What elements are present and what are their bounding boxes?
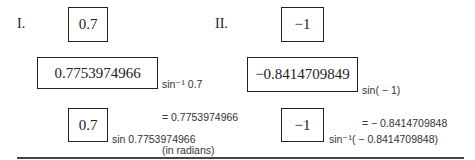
section-1-input-display: 0.7 [68,7,108,42]
note-line: sin⁻¹( − 0.8414709848) [329,134,438,145]
section-2-arcsin-note: sin⁻¹( − 0.8414709848) = − 1 [329,112,438,160]
section-2-label: II. [215,16,228,32]
note-line: sin( − 1) [362,85,447,96]
note-line: sin 0.7753974966 [112,134,196,145]
horizontal-divider [17,157,464,159]
section-1-arcsin-result-display: 0.7753974966 [37,57,158,89]
section-1-sin-result-display: 0.7 [68,108,108,142]
section-2-arcsin-result-display: −1 [281,108,324,142]
section-2-sin-result-display: −0.8414709849 [247,57,358,92]
section-2-input-display: −1 [281,7,324,42]
section-1-label: I. [17,16,25,32]
note-line: sin⁻¹ 0.7 [162,79,238,90]
section-1-sin-note: sin 0.7753974966 = 0.7 [112,112,196,160]
